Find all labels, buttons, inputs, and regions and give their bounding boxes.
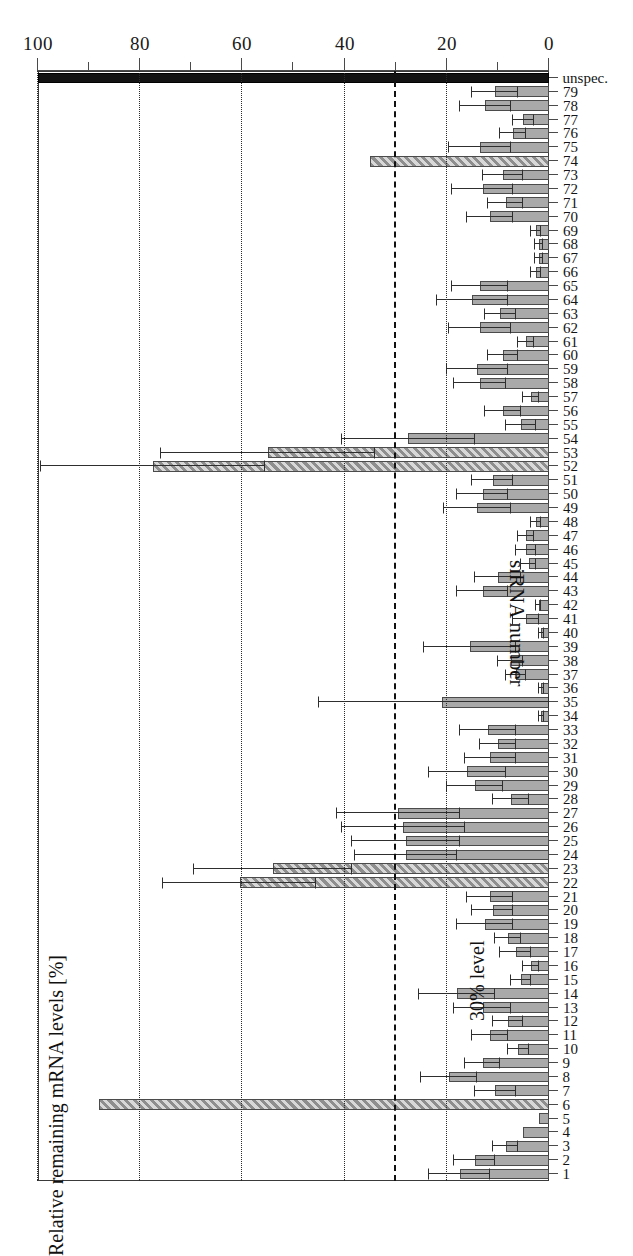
category-tick xyxy=(549,909,558,910)
value-tick-label: 0 xyxy=(544,33,554,55)
category-tick xyxy=(549,1062,558,1063)
category-tick xyxy=(549,368,558,369)
value-tick-label: 60 xyxy=(232,33,252,55)
category-tick xyxy=(549,77,558,78)
value-tick xyxy=(88,62,89,71)
category-tick xyxy=(549,1118,558,1119)
category-tick xyxy=(549,1159,558,1160)
category-tick xyxy=(549,618,558,619)
category-tick xyxy=(549,1048,558,1049)
rotated-figure-canvas: 020406080100 123456789101112131415161718… xyxy=(0,0,633,1256)
category-tick xyxy=(549,1034,558,1035)
category-tick xyxy=(549,452,558,453)
category-tick xyxy=(549,382,558,383)
threshold-annotation-label: 30% level xyxy=(466,940,489,1021)
category-tick xyxy=(549,146,558,147)
category-tick xyxy=(549,965,558,966)
category-tick xyxy=(549,202,558,203)
category-tick xyxy=(549,674,558,675)
category-tick xyxy=(549,91,558,92)
category-tick xyxy=(549,563,558,564)
category-tick xyxy=(549,715,558,716)
category-tick xyxy=(549,354,558,355)
value-tick xyxy=(293,62,294,71)
value-tick xyxy=(395,62,396,71)
category-tick xyxy=(549,729,558,730)
category-tick xyxy=(549,1020,558,1021)
category-tick xyxy=(549,604,558,605)
category-tick xyxy=(549,1145,558,1146)
value-tick xyxy=(548,58,549,71)
value-tick-label: 80 xyxy=(130,33,150,55)
category-tick xyxy=(549,979,558,980)
category-tick xyxy=(549,174,558,175)
category-tick xyxy=(549,687,558,688)
category-tick xyxy=(549,854,558,855)
category-tick xyxy=(549,590,558,591)
category-tick xyxy=(549,438,558,439)
category-tick xyxy=(549,1104,558,1105)
category-tick xyxy=(549,327,558,328)
value-tick xyxy=(241,58,242,71)
category-tick xyxy=(549,535,558,536)
category-tick xyxy=(549,882,558,883)
value-tick xyxy=(190,62,191,71)
category-tick xyxy=(549,285,558,286)
category-tick xyxy=(549,271,558,272)
category-tick xyxy=(549,1076,558,1077)
category-tick xyxy=(549,257,558,258)
category-tick xyxy=(549,576,558,577)
category-tick xyxy=(549,105,558,106)
category-tick xyxy=(549,660,558,661)
value-tick xyxy=(446,58,447,71)
category-tick xyxy=(549,424,558,425)
category-tick xyxy=(549,785,558,786)
category-tick xyxy=(549,896,558,897)
category-tick xyxy=(549,216,558,217)
category-tick xyxy=(549,230,558,231)
chart-plot-area: 020406080100 123456789101112131415161718… xyxy=(38,71,549,1181)
category-tick xyxy=(549,188,558,189)
category-tick xyxy=(549,119,558,120)
category-tick xyxy=(549,1173,558,1174)
category-tick xyxy=(549,840,558,841)
category-tick xyxy=(549,632,558,633)
category-tick xyxy=(549,937,558,938)
category-tick xyxy=(549,132,558,133)
category-tick xyxy=(549,923,558,924)
category-tick xyxy=(549,798,558,799)
value-tick xyxy=(344,58,345,71)
value-tick-label: 100 xyxy=(23,33,53,55)
category-tick xyxy=(549,507,558,508)
value-tick xyxy=(139,58,140,71)
value-tick-label: 40 xyxy=(335,33,355,55)
value-tick xyxy=(497,62,498,71)
category-tick xyxy=(549,771,558,772)
category-tick xyxy=(549,826,558,827)
category-tick xyxy=(549,743,558,744)
category-tick xyxy=(549,313,558,314)
figure-root: 020406080100 123456789101112131415161718… xyxy=(0,0,633,1256)
category-tick xyxy=(549,493,558,494)
value-tick xyxy=(37,58,38,71)
category-tick xyxy=(549,757,558,758)
category-tick xyxy=(549,549,558,550)
category-tick xyxy=(549,341,558,342)
category-tick xyxy=(549,646,558,647)
category-tick xyxy=(549,160,558,161)
category-tick xyxy=(549,479,558,480)
category-tick-label: unspec. xyxy=(563,70,608,87)
category-tick xyxy=(549,396,558,397)
category-tick xyxy=(549,701,558,702)
category-tick xyxy=(549,521,558,522)
category-tick xyxy=(549,993,558,994)
value-tick-label: 20 xyxy=(437,33,457,55)
category-tick xyxy=(549,1007,558,1008)
category-tick xyxy=(549,951,558,952)
category-tick xyxy=(549,299,558,300)
category-tick xyxy=(549,1131,558,1132)
category-tick xyxy=(549,1090,558,1091)
category-tick xyxy=(549,465,558,466)
category-tick xyxy=(549,410,558,411)
category-tick xyxy=(549,243,558,244)
